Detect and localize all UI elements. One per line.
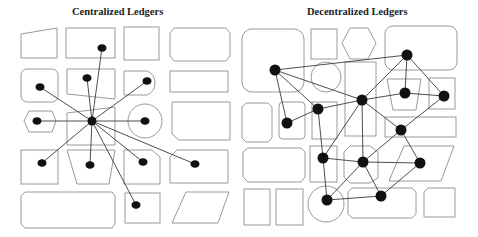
decentralized-background-shapes <box>242 26 457 225</box>
centralized-background-shapes <box>21 27 230 228</box>
decentralized-edges <box>275 55 444 200</box>
ledger-diagram <box>0 0 478 237</box>
centralized-spokes <box>37 48 195 205</box>
central-hub-node <box>88 117 97 126</box>
